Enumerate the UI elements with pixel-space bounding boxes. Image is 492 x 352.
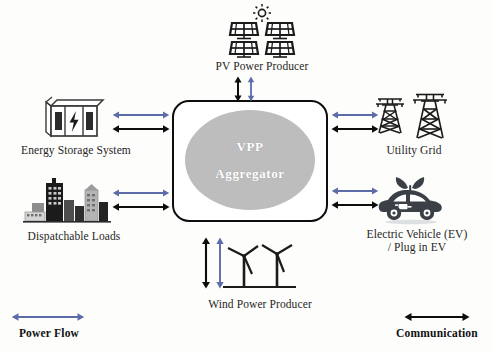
communication-legend-label: Communication: [384, 327, 490, 339]
city-skyline-icon: [22, 176, 114, 228]
electric-car-icon: [375, 176, 447, 226]
vpp-title-line1: VPP: [236, 139, 263, 155]
communication-legend-arrow: [404, 310, 470, 324]
vpp-aggregator-text: VPP Aggregator: [185, 110, 315, 210]
wind-arrow-pair: [198, 237, 230, 289]
loads-arrow-pair: [112, 186, 170, 216]
grid-arrow-pair: [331, 108, 379, 138]
electric-vehicle-label: Electric Vehicle (EV) / Plug in EV: [344, 228, 490, 254]
power-flow-legend-arrow: [11, 310, 85, 324]
vpp-diagram-canvas: VPP Aggregator: [0, 0, 492, 352]
ess-arrow-pair: [112, 108, 170, 138]
ev-arrow-pair: [331, 184, 379, 214]
wind-power-producer-label: Wind Power Producer: [180, 298, 340, 311]
wind-turbine-icon: [222, 240, 298, 296]
battery-cabinet-icon: [45, 96, 107, 142]
utility-grid-label: Utility Grid: [362, 144, 466, 157]
power-flow-legend-label: Power Flow: [6, 327, 92, 339]
dispatchable-loads-label: Dispatchable Loads: [0, 230, 148, 243]
pv-arrow-pair: [231, 76, 263, 102]
transmission-tower-icon: [373, 93, 455, 145]
vpp-title-line2: Aggregator: [215, 166, 284, 182]
pv-power-producer-label: PV Power Producer: [182, 60, 342, 73]
energy-storage-system-label: Energy Storage System: [3, 144, 149, 157]
solar-panel-icon: [222, 4, 302, 60]
